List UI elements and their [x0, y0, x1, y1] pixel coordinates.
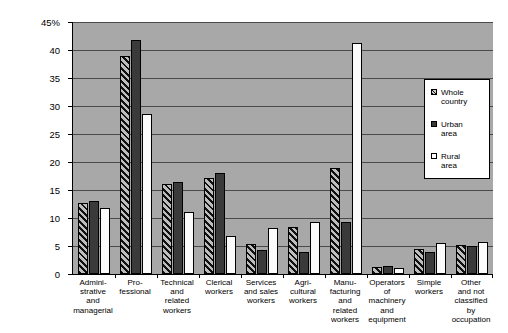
y-axis-tick-label: 10: [49, 214, 60, 224]
bar-chart: 051015202530354045% Admini- strative and…: [0, 0, 508, 333]
legend-item: Whole country: [431, 88, 467, 106]
bar: [425, 252, 436, 274]
x-axis-category-label: Operators of machinery and equipment: [366, 278, 408, 324]
bar: [341, 222, 352, 274]
bar: [268, 228, 279, 274]
bar: [383, 266, 394, 274]
y-axis-tick-label: 0: [55, 270, 60, 280]
bar: [299, 252, 310, 274]
bar: [162, 184, 173, 274]
y-axis-tick: [68, 274, 73, 275]
x-axis-category-label: Technical and related workers: [156, 278, 198, 315]
bar: [78, 203, 89, 274]
y-axis-tick-label: 25: [49, 130, 60, 140]
bar: [257, 250, 268, 274]
y-axis-tick-label: 5: [55, 242, 60, 252]
bar: [467, 246, 478, 274]
y-axis-tick-label: 15: [49, 186, 60, 196]
bar: [226, 236, 237, 274]
bar-group: [115, 22, 157, 274]
bar-group: [283, 22, 325, 274]
bar: [352, 43, 363, 274]
bar: [142, 114, 153, 274]
bar: [100, 208, 111, 274]
bar-group: [241, 22, 283, 274]
x-axis-labels: Admini- strative and managerialPro- fess…: [72, 278, 492, 333]
legend-label: Urban area: [441, 120, 463, 138]
y-axis-labels: 051015202530354045%: [0, 22, 68, 275]
legend-swatch-icon: [431, 153, 437, 159]
bar: [436, 243, 447, 274]
bar: [89, 201, 100, 274]
y-axis-tick-label: 35: [49, 74, 60, 84]
bar: [310, 222, 321, 274]
bar: [173, 182, 184, 274]
legend-item: Rural area: [431, 152, 460, 170]
bar: [288, 227, 299, 274]
bar: [456, 245, 467, 274]
x-axis-category-label: Other and not classified by occupation: [450, 278, 492, 324]
bar: [330, 168, 341, 274]
y-axis-tick-label: 30: [49, 102, 60, 112]
x-axis-category-label: Manu- facturing and related workers: [324, 278, 366, 324]
y-axis-tick-label: 40: [49, 46, 60, 56]
bar: [394, 268, 405, 274]
x-axis-tick: [492, 274, 493, 278]
bar: [215, 173, 226, 274]
y-axis-tick-label: 20: [49, 158, 60, 168]
bar-group: [367, 22, 409, 274]
chart-legend: Whole countryUrban areaRural area: [424, 79, 490, 179]
y-axis-tick-label: 45%: [41, 18, 60, 28]
bar: [246, 244, 257, 274]
bar: [414, 249, 425, 274]
x-axis-category-label: Agri- cultural workers: [282, 278, 324, 306]
legend-swatch-icon: [431, 121, 437, 127]
bar-group: [199, 22, 241, 274]
x-axis-category-label: Clerical workers: [198, 278, 240, 296]
bar: [478, 242, 489, 274]
x-axis-category-label: Admini- strative and managerial: [72, 278, 114, 315]
legend-item: Urban area: [431, 120, 463, 138]
legend-swatch-icon: [431, 89, 437, 95]
bar: [372, 267, 383, 274]
legend-label: Rural area: [441, 152, 460, 170]
bar: [184, 212, 195, 274]
bar: [120, 56, 131, 274]
bar-group: [73, 22, 115, 274]
x-axis-category-label: Services and sales workers: [240, 278, 282, 306]
x-axis-category-label: Pro- fessional: [114, 278, 156, 296]
bar: [204, 178, 215, 274]
bar-group: [325, 22, 367, 274]
bar: [131, 40, 142, 274]
bar-group: [157, 22, 199, 274]
legend-label: Whole country: [441, 88, 467, 106]
x-axis-category-label: Simple workers: [408, 278, 450, 296]
